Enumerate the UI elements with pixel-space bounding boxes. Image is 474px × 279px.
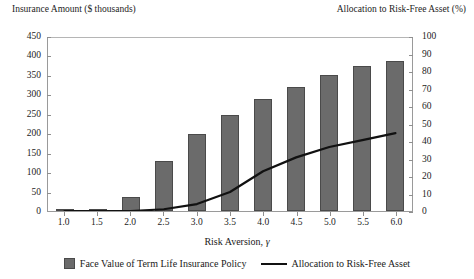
left-axis-tick-label: 50 [7, 187, 41, 197]
right-axis-tick-mark [409, 107, 413, 108]
x-axis-tick-mark [130, 212, 131, 216]
x-axis-label-text: Risk Aversion, [204, 236, 265, 247]
left-axis-tick-label: 350 [7, 70, 41, 80]
right-axis-tick-label: 30 [422, 154, 452, 164]
right-axis-tick-label: 60 [422, 101, 452, 111]
right-axis-tick-mark [409, 55, 413, 56]
right-axis-tick-mark [409, 125, 413, 126]
legend-label-line: Allocation to Risk-Free Asset [292, 258, 411, 269]
x-axis-tick-mark [163, 212, 164, 216]
left-axis-tick-label: 150 [7, 148, 41, 158]
legend-square-swatch-icon [64, 258, 75, 269]
left-axis-tick-label: 200 [7, 128, 41, 138]
right-axis-tick-mark [409, 160, 413, 161]
right-axis-tick-label: 0 [422, 206, 452, 216]
legend-item-bars: Face Value of Term Life Insurance Policy [64, 258, 247, 269]
legend-line-swatch-icon [261, 263, 287, 265]
line-series [48, 38, 412, 211]
x-axis-tick-mark [230, 212, 231, 216]
right-axis-title: Allocation to Risk-Free Asset (%) [337, 4, 466, 14]
x-axis-tick-mark [64, 212, 65, 216]
left-axis-tick-mark [47, 193, 51, 194]
right-axis-tick-label: 20 [422, 171, 452, 181]
left-axis-tick-label: 300 [7, 89, 41, 99]
right-axis-tick-mark [409, 212, 413, 213]
left-axis-tick-label: 250 [7, 109, 41, 119]
right-axis-tick-label: 80 [422, 66, 452, 76]
x-axis-tick-mark [363, 212, 364, 216]
right-axis-tick-label: 50 [422, 119, 452, 129]
left-axis-tick-label: 400 [7, 50, 41, 60]
gamma-symbol: γ [266, 236, 270, 247]
x-axis-tick-mark [197, 212, 198, 216]
right-axis-tick-label: 40 [422, 136, 452, 146]
left-axis-tick-mark [47, 37, 51, 38]
left-axis-tick-mark [47, 154, 51, 155]
right-axis-tick-label: 90 [422, 49, 452, 59]
x-axis-tick-mark [297, 212, 298, 216]
right-axis-tick-mark [409, 37, 413, 38]
right-axis-tick-mark [409, 195, 413, 196]
x-axis-tick-mark [263, 212, 264, 216]
right-axis-tick-label: 100 [422, 31, 452, 41]
right-axis-tick-mark [409, 142, 413, 143]
left-axis-title: Insurance Amount ($ thousands) [12, 4, 136, 14]
legend-label-bars: Face Value of Term Life Insurance Policy [80, 258, 247, 269]
plot-area [47, 37, 413, 212]
legend-item-line: Allocation to Risk-Free Asset [261, 258, 411, 269]
right-axis-tick-label: 10 [422, 189, 452, 199]
right-axis-tick-label: 70 [422, 84, 452, 94]
x-axis-tick-mark [396, 212, 397, 216]
x-axis-tick-mark [330, 212, 331, 216]
x-axis-label: Risk Aversion, γ [0, 236, 474, 247]
left-axis-tick-mark [47, 95, 51, 96]
chart-legend: Face Value of Term Life Insurance Policy… [0, 258, 474, 269]
x-axis-tick-mark [97, 212, 98, 216]
left-axis-tick-mark [47, 76, 51, 77]
left-axis-tick-label: 100 [7, 167, 41, 177]
x-axis-tick-label: 6.0 [376, 217, 416, 227]
left-axis-tick-mark [47, 173, 51, 174]
left-axis-tick-label: 450 [7, 31, 41, 41]
right-axis-tick-mark [409, 177, 413, 178]
left-axis-tick-mark [47, 115, 51, 116]
chart-figure: Insurance Amount ($ thousands) Allocatio… [0, 0, 474, 279]
left-axis-tick-mark [47, 56, 51, 57]
right-axis-tick-mark [409, 90, 413, 91]
left-axis-tick-label: 0 [7, 206, 41, 216]
left-axis-tick-mark [47, 134, 51, 135]
right-axis-tick-mark [409, 72, 413, 73]
